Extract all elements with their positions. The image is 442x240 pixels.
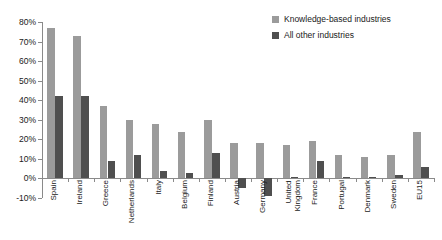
bar-group <box>251 22 277 198</box>
bar <box>100 106 108 178</box>
bar-group <box>199 22 225 198</box>
x-axis-tick-label: Ireland <box>76 180 85 204</box>
bar <box>387 155 395 178</box>
x-axis-tick-label: Portugal <box>338 180 347 210</box>
bar-group <box>120 22 146 198</box>
bar <box>309 141 317 178</box>
bar <box>343 177 351 179</box>
y-axis-tick-label: 70% <box>19 37 36 47</box>
bar-group <box>382 22 408 198</box>
bar <box>413 132 421 179</box>
x-axis-tick-label: Greece <box>102 180 111 206</box>
bar <box>369 177 377 178</box>
bar <box>81 96 89 178</box>
x-axis-tick <box>434 178 435 182</box>
bar-group <box>303 22 329 198</box>
x-axis-tick-label: Italy <box>155 180 164 195</box>
bar <box>186 173 194 179</box>
y-axis-tick-label: 20% <box>19 134 36 144</box>
bar <box>230 143 238 178</box>
bar <box>152 124 160 179</box>
x-axis-tick-label: France <box>311 180 320 205</box>
bar <box>108 161 116 179</box>
y-axis-tick-label: 60% <box>19 56 36 66</box>
x-axis-tick-label: Denmark <box>364 180 373 212</box>
x-axis-tick-label: Netherlands <box>128 180 137 223</box>
x-axis-labels: SpainIrelandGreeceNetherlandsItalyBelgiu… <box>42 180 434 240</box>
bar <box>212 153 220 178</box>
y-axis-tick-label: 30% <box>19 115 36 125</box>
plot-area: 80%70%60%50%40%30%20%10%0%-10% <box>42 22 434 198</box>
x-axis-tick-label: Germany <box>259 180 268 213</box>
bar <box>47 28 55 179</box>
x-axis-tick-label: Belgium <box>181 180 190 209</box>
x-axis-tick-label: Finland <box>207 180 216 206</box>
x-axis-tick-label: EU15 <box>416 180 425 200</box>
bar-group <box>173 22 199 198</box>
y-axis-tick-label: 50% <box>19 76 36 86</box>
bar <box>361 157 369 179</box>
bar <box>335 155 343 178</box>
bar <box>160 171 168 179</box>
bar <box>126 120 134 179</box>
bar <box>421 167 429 179</box>
bar <box>291 177 299 179</box>
bar <box>395 175 403 179</box>
bar-group <box>68 22 94 198</box>
bar-group <box>94 22 120 198</box>
x-axis-tick-label: Sweden <box>390 180 399 209</box>
bar <box>283 145 291 178</box>
bar <box>256 143 264 178</box>
y-axis-tick-label: 40% <box>19 95 36 105</box>
bar <box>317 161 325 179</box>
bar <box>73 36 81 179</box>
x-axis-tick-label: Spain <box>50 180 59 200</box>
bar <box>178 132 186 179</box>
bar-group <box>329 22 355 198</box>
bar-groups <box>42 22 434 198</box>
y-axis-tick-label: -10% <box>16 193 36 203</box>
x-axis-tick-label: Austria <box>233 180 242 205</box>
bar <box>55 96 63 178</box>
bar-group <box>408 22 434 198</box>
y-axis-tick-label: 0% <box>24 173 36 183</box>
bar <box>204 120 212 179</box>
y-axis-tick-label: 80% <box>19 17 36 27</box>
bar-group <box>277 22 303 198</box>
bar-group <box>147 22 173 198</box>
bar-group <box>42 22 68 198</box>
bar-group <box>225 22 251 198</box>
bar-chart: Knowledge-based industries All other ind… <box>0 0 442 240</box>
y-axis-tick-label: 10% <box>19 154 36 164</box>
bar <box>134 155 142 178</box>
x-axis-tick-label: United Kingdom <box>285 180 302 212</box>
bar-group <box>356 22 382 198</box>
